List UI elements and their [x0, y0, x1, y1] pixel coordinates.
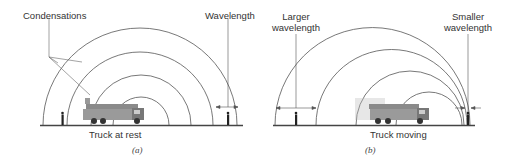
person-right-b [467, 112, 470, 125]
condensations-label: Condensations [23, 10, 86, 21]
smaller-label-line1: Smaller [440, 11, 496, 22]
person-left-b [295, 112, 298, 125]
wavelength-label: Wavelength [205, 10, 255, 21]
condensation-pointer-lines [49, 18, 90, 95]
person-left-a [61, 112, 64, 125]
truck-moving-label: Truck moving [370, 129, 427, 140]
larger-wavelength-marker [276, 34, 316, 110]
larger-label-line1: Larger [268, 11, 324, 22]
panel-b-caption: (b) [365, 145, 376, 155]
doppler-diagram [0, 0, 510, 163]
smaller-wavelength-marker [455, 34, 481, 115]
person-right-a [227, 112, 230, 125]
panel-a-caption: (a) [132, 145, 143, 155]
fire-truck-b [369, 104, 429, 124]
truck-at-rest-label: Truck at rest [89, 129, 141, 140]
smaller-label-line2: wavelength [440, 22, 496, 33]
larger-wavelength-label: Larger wavelength [268, 11, 324, 33]
larger-label-line2: wavelength [268, 22, 324, 33]
smaller-wavelength-label: Smaller wavelength [440, 11, 496, 33]
wavelength-marker-a [216, 19, 238, 109]
